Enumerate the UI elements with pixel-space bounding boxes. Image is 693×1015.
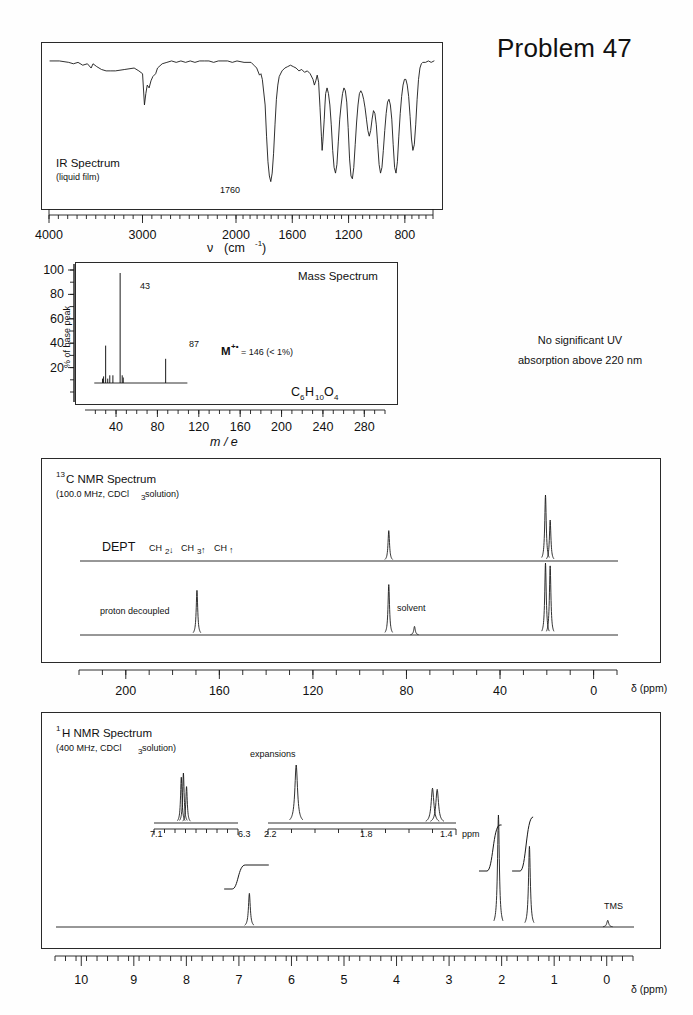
h1-exp-right-axis: 2.2 1.8 1.4 ppm [264,829,480,839]
ms-peak-group [103,273,166,383]
dept-label: DEPT [102,540,136,554]
h1-title-sup: 1 [56,724,61,733]
ms-xtick-2: 120 [188,420,209,434]
ms-xtick-6: 280 [354,420,375,434]
h1-axis: 109876543210 δ (ppm) [41,948,681,1008]
ir-tick-0: 4000 [35,228,63,242]
h1-tick-3: 7 [235,973,242,987]
formula-o: O [324,385,334,399]
ir-tick-5: 800 [394,228,415,242]
c13-axis: 20016012080400 δ (ppm) [41,662,681,708]
dept-key-0: CH [149,543,162,553]
nmr-peak [385,585,392,632]
uv-note-line1: No significant UV [480,330,680,350]
formula-o-n: 4 [334,393,339,402]
h1-plot: 1 H NMR Spectrum (400 MHz, CDCl 3 soluti… [42,713,660,948]
dept-arrow-2: ↑ [229,545,234,555]
nmr-peak [385,531,392,560]
dept-legend: DEPT CH 2 ↓ CH 3 ↑ CH ↑ [102,540,234,556]
uv-note-line2: absorption above 220 nm [480,350,680,370]
c13-tick-4: 40 [493,684,507,698]
h1-exp-right-end: 1.4 [440,829,453,839]
ms-formula: C 6 H 10 O 4 [291,385,339,402]
c13-tick-0: 200 [115,684,136,698]
ms-plot: Mass Spectrum 43 87 M +• = 146 (< 1%) C … [76,263,397,404]
ir-tick-2: 2000 [222,228,250,242]
dept-key-2: CH [214,543,227,553]
nmr-peak [193,590,200,632]
h1-panel: 1 H NMR Spectrum (400 MHz, CDCl 3 soluti… [41,712,661,949]
ir-axis: 40003000200016001200800 ν (cm -1 ) [41,209,471,255]
problem-sheet: Problem 47 No significant UV absorption … [0,0,693,1015]
ms-mplus-rest: = 146 (< 1%) [241,347,293,357]
h1-expansion-left [154,773,238,835]
h1-tick-9: 1 [551,973,558,987]
ms-xlabel: m / e [210,435,238,449]
ms-peak-label-43: 43 [140,281,150,291]
page-title: Problem 47 [497,33,632,64]
h1-header: 1 H NMR Spectrum (400 MHz, CDCl 3 soluti… [56,724,176,756]
c13-solvent-label: solvent [397,603,426,613]
ms-title: Mass Spectrum [298,270,378,282]
ms-peak-label-87: 87 [189,339,199,349]
nmr-peak [431,789,444,821]
ms-xtick-3: 160 [230,420,251,434]
h1-exp-right-start: 2.2 [264,829,277,839]
c13-decoupled-trace [80,563,618,635]
h1-tick-1: 9 [130,973,137,987]
h1-exp-left-axis: 7.1 6.3 [150,829,251,839]
nmr-peak [245,893,254,925]
ir-axis-symbol: ν [207,241,213,255]
ms-mplus: M [221,345,231,357]
c13-subtitle-a: (100.0 MHz, CDCl [56,489,129,499]
c13-header: 13 C NMR Spectrum (100.0 MHz, CDCl 3 sol… [56,470,179,502]
ir-panel: IR Spectrum (liquid film) 1760 [41,42,443,210]
ir-title: IR Spectrum [56,157,120,169]
h1-tick-4: 6 [288,973,295,987]
ms-mplus-sup: +• [231,342,239,351]
ir-tick-3: 1600 [278,228,306,242]
c13-tick-3: 80 [400,684,414,698]
c13-decoupled-label: proton decoupled [100,606,170,616]
ir-tick-1: 3000 [129,228,157,242]
h1-exp-right-mid: 1.8 [360,829,373,839]
formula-h: H [305,385,314,399]
h1-tms-label: TMS [604,901,623,911]
c13-tick-2: 120 [302,684,323,698]
h1-tick-5: 5 [341,973,348,987]
ms-xtick-4: 200 [271,420,292,434]
h1-exp-left-start: 7.1 [150,829,163,839]
ir-axis-close: ) [262,241,266,255]
h1-exp-right-unit: ppm [462,829,480,839]
c13-tick-5: 0 [590,684,597,698]
c13-panel: 13 C NMR Spectrum (100.0 MHz, CDCl 3 sol… [41,458,661,663]
h1-axis-label: δ (ppm) [631,983,667,995]
h1-exp-left-end: 6.3 [238,829,251,839]
ir-subtitle: (liquid film) [56,172,100,182]
nmr-peak [411,626,418,634]
ms-panel: Mass Spectrum 43 87 M +• = 146 (< 1%) C … [75,262,398,405]
formula-c: C [291,385,300,399]
c13-title: C NMR Spectrum [66,473,156,485]
ir-peak-label: 1760 [220,185,240,195]
nmr-peak [542,495,549,557]
nmr-peak [290,765,303,820]
nmr-peak [525,846,534,922]
ms-xtick-1: 80 [150,420,164,434]
c13-axis-label: δ (ppm) [631,682,667,694]
nmr-peak [494,815,503,920]
ms-ytick-0: 100 [43,263,64,277]
h1-tick-6: 4 [393,973,400,987]
page-title-text: Problem 47 [497,33,632,63]
dept-arrow-0: ↓ [169,545,174,555]
h1-expansions-label: expansions [250,749,296,759]
h1-integral-aromatic [224,865,269,889]
ir-axis-unit: (cm [224,241,245,255]
uv-note: No significant UV absorption above 220 n… [480,330,680,370]
dept-arrow-1: ↑ [201,545,206,555]
nmr-peak [603,920,612,926]
ms-molecular-ion: M +• = 146 (< 1%) [221,342,293,357]
ms-ylabel: % of base peak [62,305,72,368]
ms-xtick-0: 40 [109,420,123,434]
ms-ytick-1: 80 [50,287,64,301]
